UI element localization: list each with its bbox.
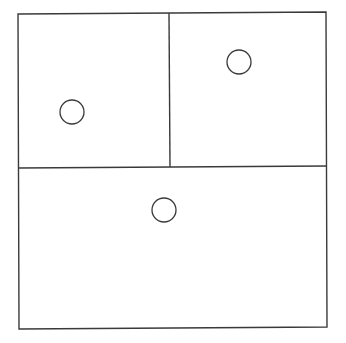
diagram-canvas xyxy=(0,0,346,343)
outer-box xyxy=(18,12,327,329)
vertical-divider xyxy=(169,13,170,167)
top-right-circle xyxy=(227,50,251,74)
horizontal-divider xyxy=(18,166,327,168)
top-left-circle xyxy=(60,100,84,124)
bottom-circle xyxy=(152,198,176,222)
